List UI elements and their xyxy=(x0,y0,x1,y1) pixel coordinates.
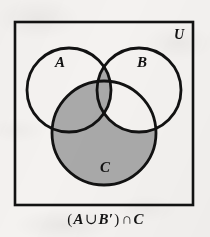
label-set-a: A xyxy=(54,54,65,70)
caption-set-a: A xyxy=(74,211,84,227)
caption-set-b-complement: B′ xyxy=(99,211,114,227)
figure-page: A B C U (A∪B′)∩C xyxy=(0,0,210,237)
label-set-c: C xyxy=(100,159,111,175)
caption-set-c: C xyxy=(133,211,143,227)
label-universe: U xyxy=(174,27,185,42)
venn-diagram: A B C U xyxy=(0,0,210,237)
caption-open-paren: ( xyxy=(66,211,73,227)
union-operator-icon: ∪ xyxy=(84,211,99,227)
intersection-operator-icon: ∩ xyxy=(120,211,133,227)
figure-caption: (A∪B′)∩C xyxy=(0,210,210,228)
label-set-b: B xyxy=(136,54,147,70)
